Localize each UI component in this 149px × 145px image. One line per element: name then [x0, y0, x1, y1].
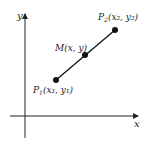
label-p2: P2(x₂, y₂): [97, 12, 138, 23]
x-axis-label: x: [134, 118, 140, 129]
point-p1: [53, 77, 59, 83]
label-m: M(x, y): [54, 43, 88, 53]
y-axis-label: y: [16, 10, 23, 21]
point-p2: [112, 27, 118, 33]
label-p1: P1(x₁, y₁): [32, 85, 73, 96]
midpoint-diagram: y x P2(x₂, y₂) M(x, y) P1(x₁, y₁): [0, 0, 149, 145]
